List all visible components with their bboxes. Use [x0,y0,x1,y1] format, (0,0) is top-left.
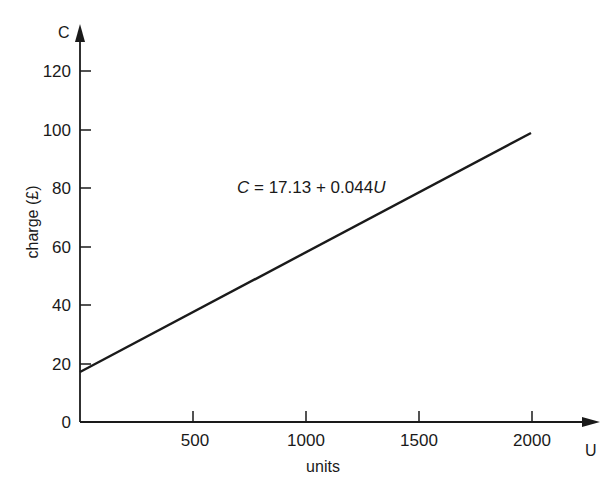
y-axis-arrow-icon [75,24,85,42]
x-tick-1000: 1000 [287,431,325,450]
x-tick-1500: 1500 [400,431,438,450]
x-axis-symbol: U [585,442,597,459]
x-tick-500: 500 [181,431,209,450]
y-tick-120: 120 [43,62,71,81]
x-tick-2000: 2000 [513,431,551,450]
x-tick-labels: 500 1000 1500 2000 [181,431,551,450]
y-tick-100: 100 [43,121,71,140]
y-tick-0: 0 [62,413,71,432]
y-tick-80: 80 [52,179,71,198]
y-tick-60: 60 [52,238,71,257]
equation-annotation: C = 17.13 + 0.044U [237,178,386,197]
y-axis-title: charge (£) [24,186,41,259]
y-tick-40: 40 [52,296,71,315]
y-ticks [80,71,91,364]
y-tick-labels: 0 20 40 60 80 100 120 [43,62,71,432]
x-axis-title: units [306,458,340,475]
series-line [80,133,531,372]
y-tick-20: 20 [52,355,71,374]
x-ticks [193,411,532,422]
x-axis-arrow-icon [582,417,600,427]
y-axis-symbol: C [58,24,70,41]
line-chart: C U 0 20 40 60 80 100 120 500 1000 1500 … [0,0,610,487]
